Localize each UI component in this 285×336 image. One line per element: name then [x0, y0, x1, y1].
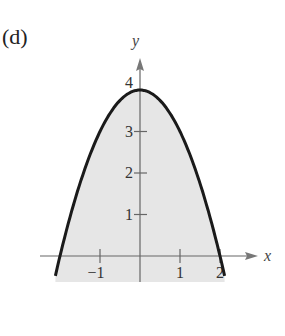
x-tick-label: −1: [87, 264, 104, 281]
x-axis-label: x: [263, 247, 271, 264]
y-tick-label: 3: [125, 123, 133, 140]
y-axis-label: y: [130, 32, 140, 50]
y-tick-label: 4: [125, 74, 133, 91]
chart: −1121234 x y: [0, 0, 285, 336]
x-tick-label: 1: [176, 264, 184, 281]
y-tick-label: 2: [125, 164, 133, 181]
y-tick-label: 1: [125, 206, 133, 223]
